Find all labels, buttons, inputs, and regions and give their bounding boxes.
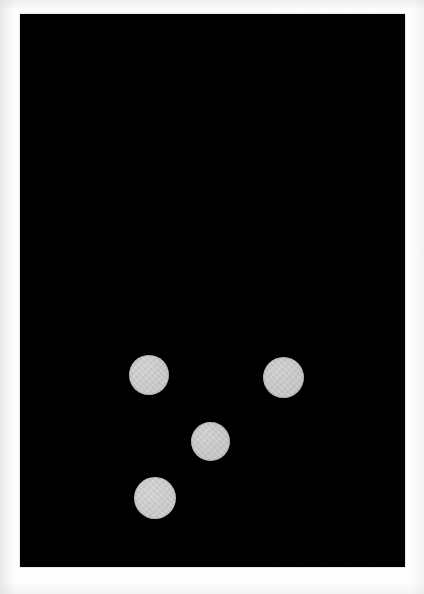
disc-2-top-right bbox=[263, 357, 304, 398]
disc-4-bottom-left bbox=[134, 477, 176, 519]
disc-3-center bbox=[191, 422, 230, 461]
dark-field-photo bbox=[20, 14, 405, 567]
disc-1-top-left bbox=[129, 355, 169, 395]
photo-page bbox=[0, 0, 424, 594]
